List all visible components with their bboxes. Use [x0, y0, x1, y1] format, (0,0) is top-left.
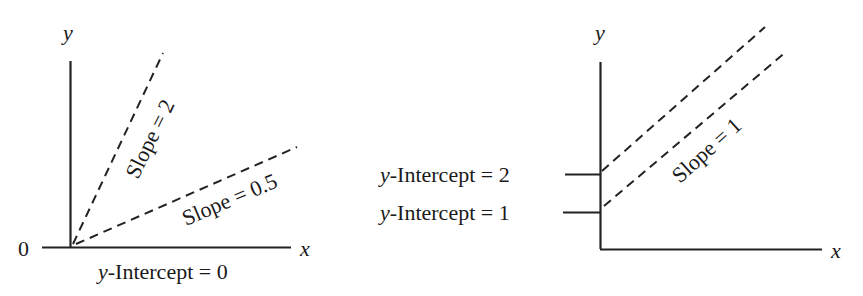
- line-intercept-2: [602, 27, 765, 171]
- right-x-axis-label: x: [830, 238, 841, 263]
- label-intercept-2: y-Intercept = 2: [378, 162, 510, 187]
- left-y-axis-label: y: [61, 20, 73, 45]
- label-intercept-1: y-Intercept = 1: [378, 200, 510, 225]
- right-y-axis-label: y: [593, 20, 605, 45]
- right-graph: y x Slope = 1 y-Intercept = 2 y-Intercep…: [378, 20, 841, 263]
- left-x-axis-label: x: [299, 236, 310, 261]
- label-intercept-0: y-Intercept = 0: [96, 259, 228, 284]
- label-slope-1: Slope = 1: [667, 113, 747, 188]
- line-intercept-1: [604, 51, 787, 206]
- left-graph: y x 0 Slope = 2 Slope = 0.5 y-Intercept …: [18, 20, 310, 284]
- origin-label: 0: [18, 236, 29, 261]
- label-slope-2: Slope = 2: [120, 95, 180, 182]
- slope-intercept-diagram: y x 0 Slope = 2 Slope = 0.5 y-Intercept …: [0, 0, 863, 296]
